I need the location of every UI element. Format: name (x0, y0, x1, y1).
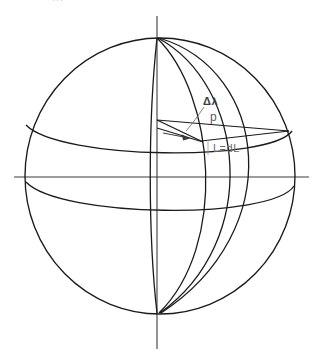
arc-length-label: L=dL (213, 142, 240, 154)
meridian-rim (159, 38, 249, 313)
meridian-front-left (150, 38, 157, 313)
meridian-mid (157, 38, 206, 313)
upper-parallel-front-arc (26, 125, 292, 153)
meridian-right (158, 38, 230, 313)
wedge-inner-radius (157, 128, 203, 142)
cropped-caption-fragment: ··· (52, 0, 64, 1)
delta-lambda-leader-line (186, 107, 204, 131)
sphere-diagram-figure: ··· Δλ p L=dL (0, 0, 322, 364)
sphere-outline-circle (25, 38, 295, 314)
point-p-label: p (210, 110, 217, 124)
lower-parallel-front-arc (26, 182, 294, 210)
sphere-diagram-canvas (0, 0, 322, 364)
delta-lambda-label: Δλ (203, 95, 218, 107)
